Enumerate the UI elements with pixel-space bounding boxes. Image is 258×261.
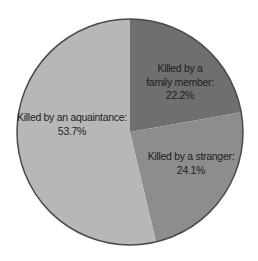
label-family-member: Killed by a family member: 22.2%	[146, 62, 214, 103]
label-family-line1: Killed by a	[146, 62, 214, 76]
label-family-line2: family member:	[146, 76, 214, 90]
label-acquaintance: Killed by an aquaintance: 53.7%	[17, 111, 127, 138]
label-acquaintance-line1: Killed by an aquaintance:	[17, 111, 127, 125]
label-acquaintance-value: 53.7%	[17, 125, 127, 139]
label-family-value: 22.2%	[146, 89, 214, 103]
label-stranger-line1: Killed by a stranger:	[148, 150, 235, 164]
label-stranger-value: 24.1%	[148, 164, 235, 178]
label-stranger: Killed by a stranger: 24.1%	[148, 150, 235, 177]
